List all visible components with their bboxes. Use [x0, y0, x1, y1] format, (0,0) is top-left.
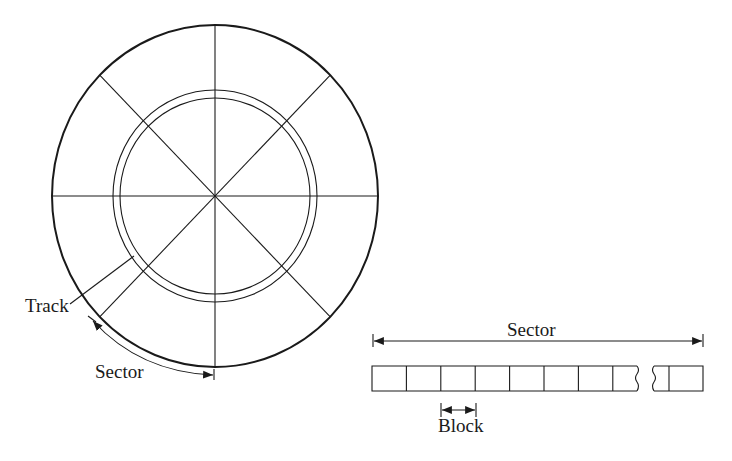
strip-break-left	[636, 366, 639, 391]
strip-segment-tail	[654, 366, 703, 391]
strip-sector-label: Sector	[507, 319, 556, 340]
track-label: Track	[25, 295, 69, 316]
block-label: Block	[438, 415, 484, 436]
track-annotation: Track	[25, 256, 134, 316]
track-leader-line	[70, 256, 134, 304]
sector-arc-tick-start	[88, 316, 96, 322]
strip-segment-main	[372, 366, 637, 391]
disk-diagram: Track Sector Sector Block	[0, 0, 732, 461]
strip-break-right	[653, 366, 656, 391]
sector-strip: Sector Block	[372, 319, 703, 436]
disk-platter	[52, 25, 378, 367]
block-dividers-main	[406, 366, 612, 391]
sector-arc-annotation: Sector	[88, 316, 214, 382]
sector-dividers	[52, 25, 378, 367]
sector-arc-label: Sector	[95, 361, 144, 382]
